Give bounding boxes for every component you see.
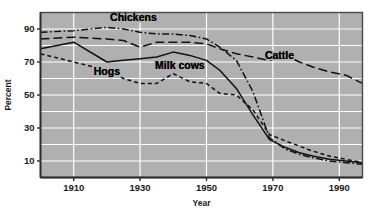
series-label-hogs: Hogs	[94, 65, 120, 77]
livestock-line-chart: ChickensChickensCattleCattleMilk cowsMil…	[0, 0, 375, 211]
y-tick-label: 10	[24, 155, 35, 166]
x-tick-label: 1910	[63, 182, 84, 193]
y-tick-label: 30	[24, 122, 35, 133]
y-tick-label: 50	[24, 89, 35, 100]
x-tick-label: 1930	[130, 182, 151, 193]
y-axis-title: Percent	[3, 79, 13, 110]
x-tick-label: 1950	[196, 182, 217, 193]
y-tick-label: 90	[24, 23, 35, 34]
series-label-milk-cows: Milk cows	[155, 59, 205, 71]
y-tick-label: 70	[24, 56, 35, 67]
x-axis-title: Year	[193, 198, 212, 208]
series-label-cattle: Cattle	[265, 49, 294, 61]
chart-figure: ChickensChickensCattleCattleMilk cowsMil…	[0, 0, 375, 211]
x-tick-label: 1990	[329, 182, 350, 193]
x-tick-label: 1970	[262, 182, 283, 193]
